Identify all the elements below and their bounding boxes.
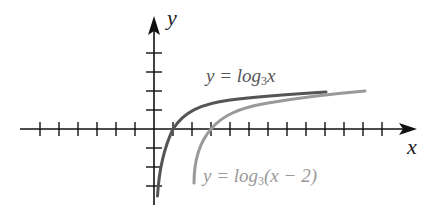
x-axis-label: x: [407, 136, 417, 158]
curve-label-log3x-minus-2: y = log3(x − 2): [203, 166, 317, 187]
curve-label-log3x-prefix: y = log: [206, 65, 261, 86]
plot-svg: [0, 0, 439, 223]
curve-label-log3x: y = log3x: [206, 66, 275, 87]
y-axis-label: y: [167, 7, 177, 29]
curve-label-log3x-arg: x: [267, 65, 275, 86]
log-graph-figure: y x y = log3x y = log3(x − 2): [0, 0, 439, 223]
curve-label-log3x-minus-2-arg: (x − 2): [264, 165, 317, 186]
curve-label-log3x-minus-2-prefix: y = log: [203, 165, 258, 186]
